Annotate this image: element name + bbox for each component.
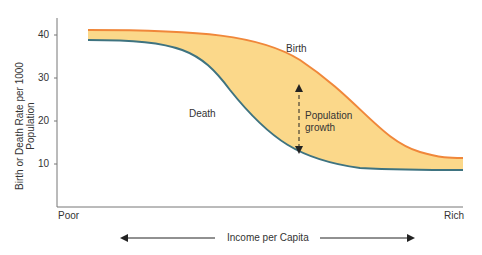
x-tick-rich: Rich xyxy=(444,210,464,221)
x-axis-label: Income per Capita xyxy=(227,232,309,243)
y-axis-label: Birth or Death Rate per 1000 Population xyxy=(14,41,36,211)
y-tick: 20 xyxy=(38,115,49,126)
growth-area xyxy=(88,30,463,170)
y-tick: 40 xyxy=(38,29,49,40)
y-tick: 30 xyxy=(38,72,49,83)
chart: Birth or Death Rate per 1000 Population … xyxy=(0,0,482,255)
x-tick-poor: Poor xyxy=(58,210,79,221)
death-label: Death xyxy=(189,108,216,119)
growth-label: Populationgrowth xyxy=(305,110,352,134)
birth-label: Birth xyxy=(286,43,307,54)
y-tick: 10 xyxy=(38,158,49,169)
